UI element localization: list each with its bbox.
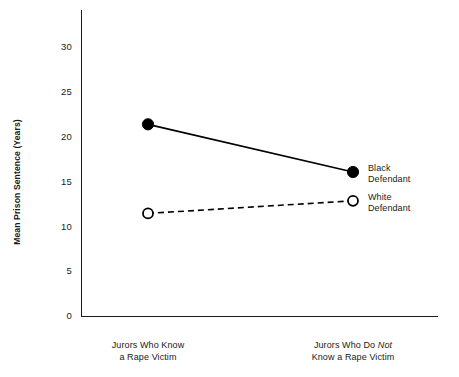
legend-entry-white-defendant-line1: White (368, 192, 410, 203)
data-point-white-defendant-know (143, 208, 153, 218)
y-tick-label-0: 0 (46, 311, 72, 321)
data-point-black-defendant-not-know (347, 166, 358, 177)
y-axis-title: Mean Prison Sentence (Years) (12, 107, 22, 257)
y-tick-label-5: 5 (46, 266, 72, 276)
x-category-label-not-know-victim: Jurors Who Do Not Know a Rape Victim (273, 340, 433, 363)
y-tick-label-20: 20 (46, 132, 72, 142)
x-category-label-not-know-victim-line1-text: Jurors Who Do (314, 340, 378, 350)
y-tick-label-25: 25 (46, 87, 72, 97)
y-tick-label-30: 30 (46, 42, 72, 52)
y-tick-label-10: 10 (46, 222, 72, 232)
chart-figure: Mean Prison Sentence (Years) 30 25 20 15… (0, 0, 459, 377)
x-category-label-know-victim: Jurors Who Know a Rape Victim (68, 340, 228, 363)
legend-entry-black-defendant-line2: Defendant (368, 174, 410, 185)
legend-entry-black-defendant-line1: Black (368, 163, 410, 174)
x-category-label-know-victim-line2: a Rape Victim (68, 352, 228, 364)
x-category-label-not-know-victim-line1: Jurors Who Do Not (273, 340, 433, 352)
legend-entry-white-defendant: White Defendant (368, 192, 410, 213)
data-point-black-defendant-know (142, 119, 153, 130)
data-point-white-defendant-not-know (348, 196, 358, 206)
legend-entry-white-defendant-line2: Defendant (368, 203, 410, 214)
y-tick-label-15: 15 (46, 177, 72, 187)
x-category-label-not-know-victim-emphasis: Not (378, 340, 392, 350)
series-line-white-defendant (148, 201, 353, 214)
x-category-label-know-victim-line1: Jurors Who Know (68, 340, 228, 352)
series-line-black-defendant (148, 124, 353, 172)
legend-entry-black-defendant: Black Defendant (368, 163, 410, 184)
x-category-label-not-know-victim-line2: Know a Rape Victim (273, 352, 433, 364)
